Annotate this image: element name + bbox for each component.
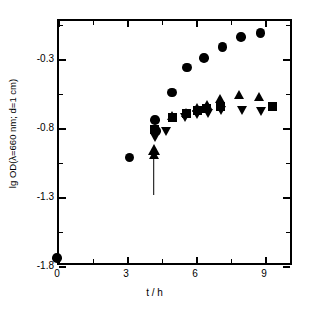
data-point-up-triangles xyxy=(215,94,225,103)
data-point-circles xyxy=(236,32,246,42)
data-point-circles xyxy=(199,53,209,63)
axis-tick xyxy=(286,25,290,26)
x-tick-label: 9 xyxy=(261,268,267,279)
arrow-shaft xyxy=(153,154,155,195)
data-point-circles xyxy=(150,115,160,125)
data-point-down-triangles xyxy=(180,113,190,122)
x-tick-label: 0 xyxy=(54,268,60,279)
axis-tick xyxy=(59,59,66,60)
axis-tick xyxy=(265,257,266,263)
x-axis-title: t / h xyxy=(0,287,309,298)
y-tick-label: -1.3 xyxy=(37,190,54,201)
axis-tick xyxy=(93,259,94,263)
axis-tick xyxy=(286,94,290,95)
axis-tick xyxy=(59,163,63,164)
axis-tick xyxy=(127,257,128,263)
data-point-up-triangles xyxy=(234,90,244,99)
data-point-circles xyxy=(52,253,62,263)
axis-tick xyxy=(286,163,290,164)
data-point-up-triangles xyxy=(254,92,264,101)
axis-tick xyxy=(231,259,232,263)
data-point-down-triangles xyxy=(161,127,171,136)
data-point-circles xyxy=(167,88,177,98)
axis-tick xyxy=(231,21,232,25)
data-point-down-triangles xyxy=(150,133,160,142)
axis-tick xyxy=(265,21,266,27)
axis-tick xyxy=(283,59,290,60)
axis-tick xyxy=(127,21,128,27)
data-point-down-triangles xyxy=(192,110,202,119)
axis-tick xyxy=(59,94,63,95)
figure-container: 0369 -0.3-0.8-1.3-1.8 t / h lg OD(λ=660 … xyxy=(0,0,309,309)
y-tick-label: -0.3 xyxy=(37,52,54,63)
data-point-up-triangles xyxy=(202,100,212,109)
axis-tick xyxy=(162,259,163,263)
plot-frame xyxy=(57,19,292,265)
data-point-up-triangles xyxy=(167,111,177,120)
data-point-squares xyxy=(268,102,277,111)
axis-tick xyxy=(283,128,290,129)
axis-tick xyxy=(196,257,197,263)
y-axis-title: lg OD(λ=660 nm; d=1 cm) xyxy=(7,54,18,214)
y-tick-label: -0.8 xyxy=(37,121,54,132)
data-point-circles xyxy=(256,28,266,38)
axis-tick xyxy=(283,197,290,198)
axis-tick xyxy=(59,128,66,129)
data-point-circles xyxy=(182,63,192,73)
y-tick-label: -1.8 xyxy=(37,260,54,271)
data-point-down-triangles xyxy=(256,107,266,116)
axis-tick xyxy=(59,25,63,26)
data-point-circles xyxy=(125,153,135,163)
data-point-down-triangles xyxy=(216,106,226,115)
data-point-circles xyxy=(218,42,228,52)
x-tick-label: 3 xyxy=(123,268,129,279)
data-point-down-triangles xyxy=(237,106,247,115)
axis-tick xyxy=(59,197,66,198)
x-tick-label: 6 xyxy=(192,268,198,279)
axis-tick xyxy=(283,266,290,267)
axis-tick xyxy=(286,232,290,233)
data-point-down-triangles xyxy=(203,109,213,118)
plot-area xyxy=(59,21,290,263)
axis-tick xyxy=(162,21,163,25)
axis-tick xyxy=(93,21,94,25)
inoculation-arrow-icon xyxy=(147,144,161,196)
axis-tick xyxy=(59,232,63,233)
axis-tick xyxy=(196,21,197,27)
